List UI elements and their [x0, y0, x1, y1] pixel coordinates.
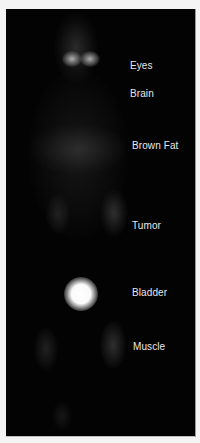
eye-left [62, 51, 82, 67]
label-brown-fat: Brown Fat [132, 140, 178, 151]
left-flank-region [46, 194, 70, 234]
muscle-left [34, 327, 58, 371]
label-eyes: Eyes [130, 60, 153, 71]
tumor-region [100, 189, 128, 237]
scan-image: Eyes Brain Brown Fat Tumor Bladder Muscl… [6, 9, 196, 437]
label-tumor: Tumor [132, 220, 161, 231]
muscle-right [100, 321, 126, 369]
label-bladder: Bladder [132, 287, 167, 298]
label-brain: Brain [130, 88, 154, 99]
bladder-hotspot [64, 277, 98, 311]
tail-region [52, 401, 72, 431]
eye-right [80, 51, 100, 67]
brown-fat-region [30, 124, 126, 174]
label-muscle: Muscle [133, 341, 165, 352]
